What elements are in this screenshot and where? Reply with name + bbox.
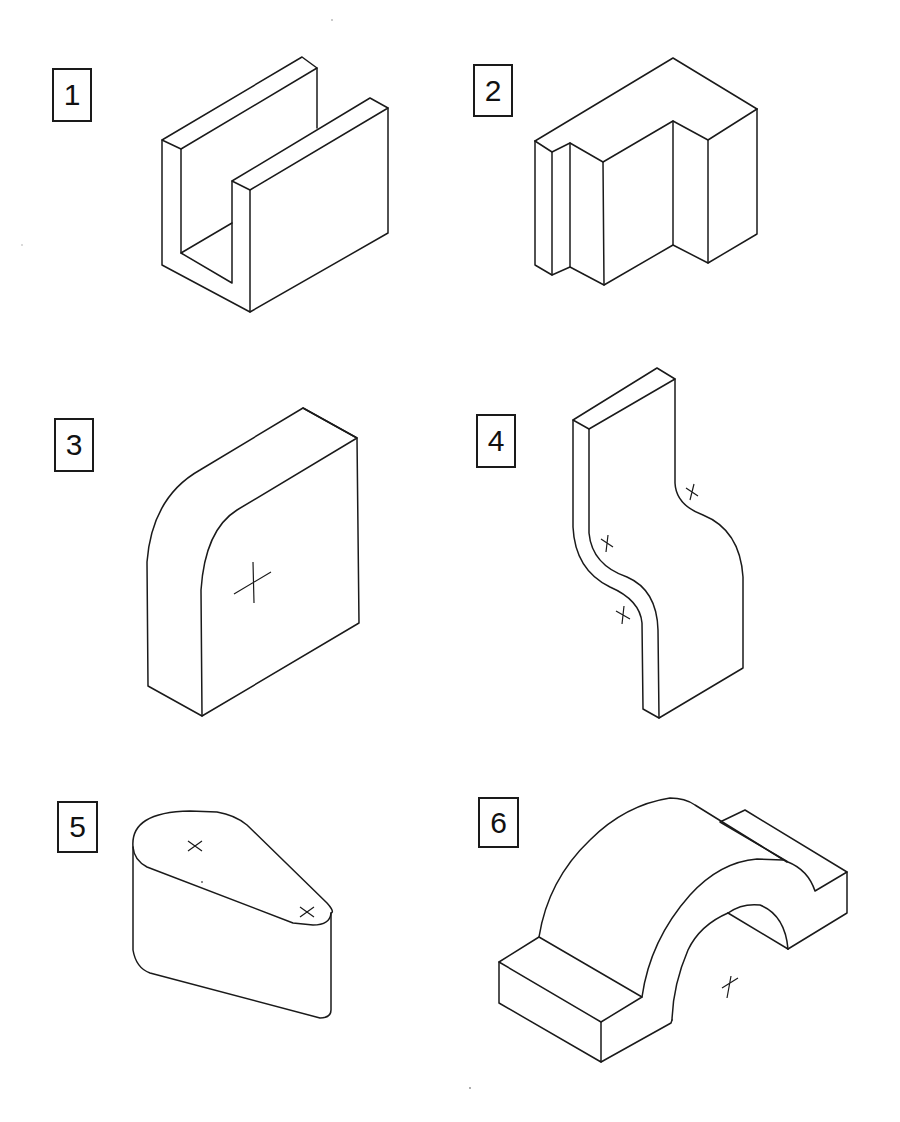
shape-5-teardrop-prism xyxy=(133,811,332,1018)
shape-3-rounded-slab xyxy=(147,408,359,716)
shape-6-arched-bridge xyxy=(499,798,847,1062)
shape-4-s-plate xyxy=(573,368,743,718)
drawing-canvas xyxy=(0,0,900,1122)
scan-specks xyxy=(21,19,471,1089)
shape-2-stepped-block xyxy=(535,58,757,285)
shape-1-u-channel xyxy=(162,57,388,312)
